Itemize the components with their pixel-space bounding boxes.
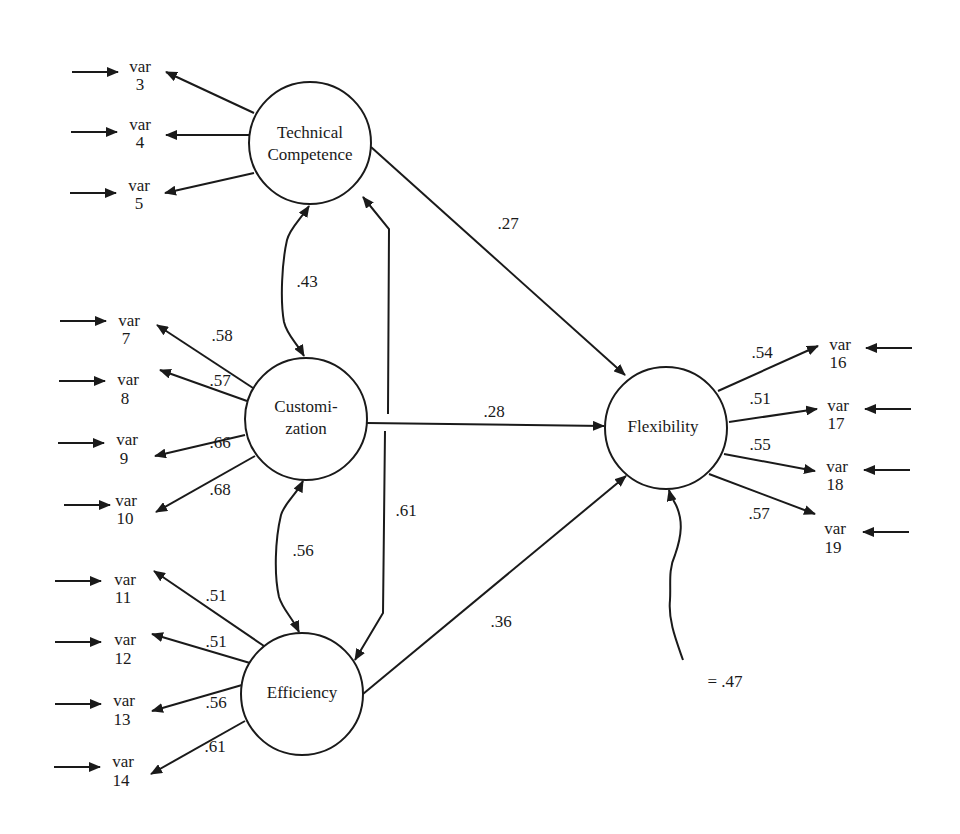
path-coef-tc-fl: .27 xyxy=(497,214,519,233)
indicator-number: 12 xyxy=(115,649,132,668)
loadings-customization xyxy=(155,325,255,512)
indicators-technical-competence: var 3 var 4 var 5 xyxy=(128,57,151,213)
indicator-number: 13 xyxy=(114,710,131,729)
loading-coef-var16: .54 xyxy=(751,343,773,362)
factor-label-line-2: Competence xyxy=(268,145,353,164)
indicator-var-label: var xyxy=(827,396,849,415)
indicator-var-label: var xyxy=(117,370,139,389)
factor-label-line-1: Customi- xyxy=(274,397,338,416)
loading-coef-var10: .68 xyxy=(209,480,230,499)
indicator-var-label: var xyxy=(826,457,848,476)
factor-label-line-2: zation xyxy=(285,419,327,438)
path-coef-cu-fl: .28 xyxy=(483,402,504,421)
indicators-flexibility: var 16 var 17 var 18 var 19 xyxy=(824,335,851,557)
loading-coef-var18: .55 xyxy=(749,435,770,454)
loading-coef-var19: .57 xyxy=(748,504,770,523)
indicator-number: 7 xyxy=(122,329,131,348)
path-arrow-cu-to-fl xyxy=(367,423,604,426)
indicator-var-label: var xyxy=(129,115,151,134)
indicator-number: 16 xyxy=(830,353,847,372)
loading-arrow-var10 xyxy=(156,456,255,512)
disturbance-label: = .47 xyxy=(707,672,743,691)
indicator-error-arrows-left xyxy=(54,72,118,767)
loading-arrow-var3 xyxy=(166,72,254,113)
indicator-var-label: var xyxy=(129,57,151,76)
indicator-number: 5 xyxy=(135,194,144,213)
covariance-coef-tc-ef: .61 xyxy=(395,501,416,520)
indicator-number: 3 xyxy=(136,75,145,94)
indicator-var-label: var xyxy=(829,335,851,354)
loading-arrow-var7 xyxy=(157,325,253,388)
loading-arrow-var18 xyxy=(724,454,815,471)
indicator-number: 8 xyxy=(121,389,130,408)
path-coef-ef-fl: .36 xyxy=(490,612,511,631)
loading-coef-var8: .57 xyxy=(209,371,231,390)
indicator-var-label: var xyxy=(114,570,136,589)
factor-circle-technical-competence xyxy=(249,82,371,204)
indicator-number: 17 xyxy=(828,414,846,433)
factor-technical-competence: Technical Competence xyxy=(249,82,371,204)
indicator-var-label: var xyxy=(114,630,136,649)
indicator-var-label: var xyxy=(118,311,140,330)
loading-coef-var12: .51 xyxy=(205,632,226,651)
factor-label: Efficiency xyxy=(267,683,338,702)
indicator-error-arrows-right xyxy=(863,348,912,532)
indicator-number: 10 xyxy=(117,509,134,528)
factor-efficiency: Efficiency xyxy=(241,633,363,755)
indicator-number: 11 xyxy=(115,588,131,607)
loadings-technical-competence xyxy=(165,72,254,193)
loading-coef-var7: .58 xyxy=(211,326,232,345)
covariance-bracket-tc-ef-upper xyxy=(363,197,389,414)
factor-label-line-1: Technical xyxy=(277,123,343,142)
indicator-number: 9 xyxy=(120,449,129,468)
loading-coef-var13: .56 xyxy=(205,693,226,712)
indicator-var-label: var xyxy=(128,176,150,195)
loading-arrow-var5 xyxy=(165,173,254,193)
loading-arrow-var17 xyxy=(729,409,817,422)
indicator-var-label: var xyxy=(112,752,134,771)
loading-coef-var14: .61 xyxy=(204,737,225,756)
covariance-bracket-tc-ef-lower xyxy=(355,431,385,660)
indicator-number: 14 xyxy=(113,771,131,790)
covariance-coef-tc-cu: .43 xyxy=(296,272,317,291)
indicator-number: 4 xyxy=(136,133,145,152)
indicator-var-label: var xyxy=(113,691,135,710)
indicator-var-label: var xyxy=(116,430,138,449)
loading-coef-var17: .51 xyxy=(749,389,770,408)
loading-coef-var11: .51 xyxy=(205,586,226,605)
path-arrow-tc-to-fl xyxy=(371,147,625,375)
disturbance-arrow-flexibility xyxy=(669,490,683,660)
indicator-var-label: var xyxy=(115,491,137,510)
factor-customization: Customi- zation xyxy=(245,358,367,480)
indicators-customization: var 7 var 8 var 9 var 10 xyxy=(115,311,140,528)
indicators-efficiency: var 11 var 12 var 13 var 14 xyxy=(112,570,136,790)
indicator-number: 18 xyxy=(827,475,844,494)
covariance-coef-cu-ef: .56 xyxy=(292,541,313,560)
loading-arrow-var13 xyxy=(152,685,242,711)
loading-arrow-var14 xyxy=(151,721,245,774)
loading-coef-var9: .66 xyxy=(209,433,230,452)
factor-label: Flexibility xyxy=(628,417,699,436)
loading-arrow-var12 xyxy=(152,634,250,663)
indicator-var-label: var xyxy=(824,519,846,538)
factor-flexibility: Flexibility xyxy=(605,367,727,489)
indicator-number: 19 xyxy=(825,538,842,557)
loading-arrow-var9 xyxy=(155,435,245,456)
sem-path-diagram: Technical Competence Customi- zation Eff… xyxy=(0,0,960,834)
